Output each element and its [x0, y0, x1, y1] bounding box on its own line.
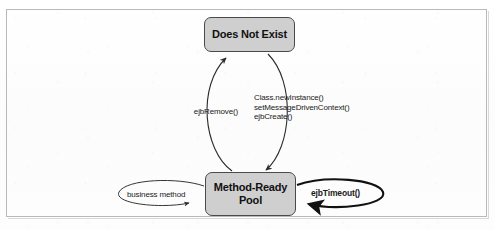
- state-does-not-exist[interactable]: Does Not Exist: [204, 17, 295, 52]
- state-method-ready-pool[interactable]: Method-Ready Pool: [205, 172, 296, 216]
- edge-label-business-method: business method: [127, 190, 185, 200]
- edge-label-ejb-timeout: ejbTimeout(): [311, 189, 360, 199]
- state-method-ready-pool-label: Method-Ready Pool: [210, 181, 291, 207]
- state-does-not-exist-label: Does Not Exist: [208, 28, 291, 41]
- figure-container: Does Not Exist Method-Ready Pool ejbRemo…: [0, 0, 495, 230]
- edge-label-ejb-remove: ejbRemove(): [176, 107, 238, 117]
- edge-label-create-sequence: Class.newInstance() setMessageDrivenCont…: [254, 93, 349, 122]
